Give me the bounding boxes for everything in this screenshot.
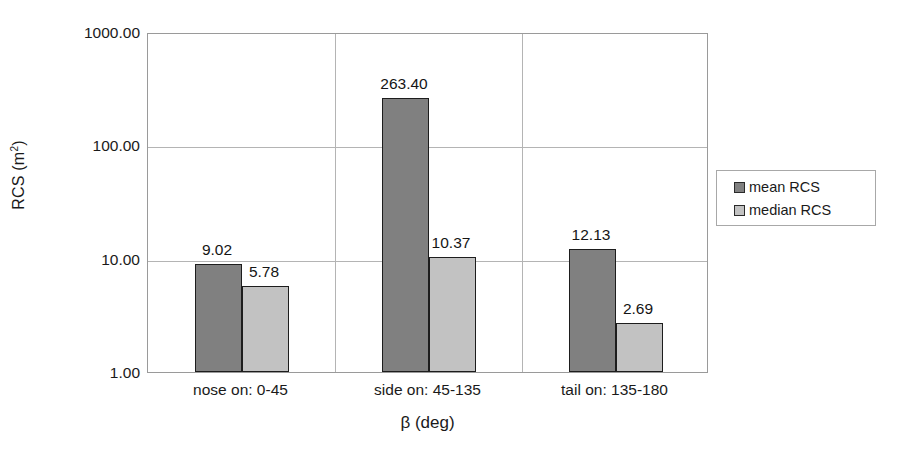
y-axis-title-text: RCS (m xyxy=(10,152,27,210)
legend-swatch-icon-mean xyxy=(734,182,745,193)
x-category-label: side on: 45-135 xyxy=(334,382,521,398)
bar-value-label: 2.69 xyxy=(593,301,683,317)
bar-value-label: 12.13 xyxy=(546,227,636,243)
x-axis-title: β (deg) xyxy=(147,413,708,433)
bar-median-rcs-2 xyxy=(616,323,663,372)
bar-value-label: 5.78 xyxy=(219,264,309,280)
y-axis-title: RCS (m2) xyxy=(10,115,28,235)
bar-value-label: 263.40 xyxy=(359,76,449,92)
y-tick-label-1000-00: 1000.00 xyxy=(50,25,140,41)
legend-item-median-rcs: median RCS xyxy=(734,202,831,218)
bar-value-label: 10.37 xyxy=(406,235,496,251)
chart-legend: mean RCS median RCS xyxy=(716,170,876,226)
gridline-vertical xyxy=(522,34,523,372)
y-axis-tick-labels: 1000.00100.0010.001.00 xyxy=(50,0,140,400)
legend-swatch-icon-median xyxy=(734,205,745,216)
legend-item-mean-rcs: mean RCS xyxy=(734,179,820,195)
bar-mean-rcs-0 xyxy=(195,264,242,372)
gridline-vertical xyxy=(335,34,336,372)
x-category-label: nose on: 0-45 xyxy=(147,382,334,398)
bar-median-rcs-0 xyxy=(242,286,289,372)
rcs-log-bar-chart: RCS (m2) 1000.00100.0010.001.00 9.025.78… xyxy=(0,0,914,460)
y-axis-title-exponent: 2 xyxy=(9,146,20,152)
legend-label-median: median RCS xyxy=(749,202,831,218)
bar-median-rcs-1 xyxy=(429,257,476,372)
y-tick-label-10-00: 10.00 xyxy=(50,252,140,268)
y-axis-title-paren: ) xyxy=(10,140,27,146)
bar-value-label: 9.02 xyxy=(172,242,262,258)
y-tick-label-1-00: 1.00 xyxy=(50,365,140,381)
x-category-label: tail on: 135-180 xyxy=(521,382,708,398)
y-tick-label-100-00: 100.00 xyxy=(50,138,140,154)
legend-label-mean: mean RCS xyxy=(749,179,820,195)
